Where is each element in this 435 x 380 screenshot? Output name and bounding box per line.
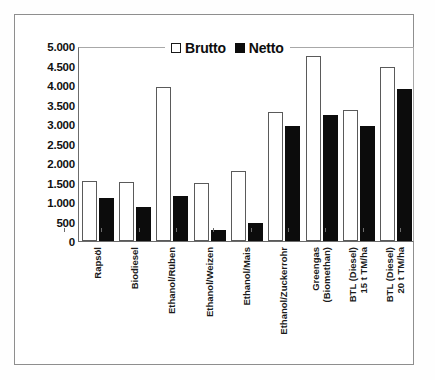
- bar-group: [268, 48, 300, 241]
- bar-brutto: [82, 181, 97, 241]
- bar-group: [343, 48, 375, 241]
- chart-legend: Brutto Netto: [165, 38, 290, 57]
- category-label-line: 20 t TM/ha: [395, 247, 406, 302]
- bar-brutto: [268, 112, 283, 241]
- x-tick: [288, 228, 289, 232]
- bar-brutto: [306, 56, 321, 241]
- bars-container: [79, 48, 413, 241]
- category-label-line: BTL (Diesel): [384, 247, 395, 302]
- category-label-line: Biodiesel: [129, 247, 140, 289]
- bar-group: [194, 48, 226, 241]
- legend-entry-brutto: Brutto: [171, 40, 226, 56]
- bar-brutto: [119, 182, 134, 241]
- category-label: Ethanol/Weizen: [204, 247, 215, 317]
- y-tick-label: 4.000: [29, 80, 75, 92]
- y-axis: 05001.0001.5002.0002.5003.0003.5004.0004…: [29, 40, 75, 249]
- bar-group: [156, 48, 188, 241]
- bar-group: [231, 48, 263, 241]
- category-label: Ethanol/Mais: [241, 247, 252, 306]
- bar-brutto: [231, 171, 246, 241]
- legend-entry-netto: Netto: [235, 40, 284, 56]
- x-tick: [400, 228, 401, 232]
- category-label-line: BTL (Diesel): [347, 247, 358, 302]
- x-tick: [325, 228, 326, 232]
- category-label: Ethanol/Rüben: [166, 247, 177, 314]
- y-tick-label: 2.500: [29, 139, 75, 151]
- bar-brutto: [194, 183, 209, 241]
- chart-figure: 05001.0001.5002.0002.5003.0003.5004.0004…: [0, 0, 435, 380]
- category-label: BTL (Diesel)20 t TM/ha: [384, 247, 406, 302]
- x-tick: [176, 228, 177, 232]
- legend-label-netto: Netto: [249, 40, 284, 56]
- y-tick-label: 3.500: [29, 100, 75, 112]
- bar-netto: [323, 115, 338, 241]
- category-label-line: (Biomethan): [321, 247, 332, 302]
- category-label: Ethanol/Zuckerrohr: [278, 247, 289, 335]
- category-label-line: Rapsöl: [92, 247, 103, 279]
- bar-netto: [360, 126, 375, 241]
- bar-netto: [248, 223, 263, 241]
- bar-group: [306, 48, 338, 241]
- x-tick: [363, 228, 364, 232]
- bar-brutto: [380, 67, 395, 241]
- x-tick: [101, 228, 102, 232]
- y-tick-label: 3.000: [29, 119, 75, 131]
- y-tick-label: 4.500: [29, 61, 75, 73]
- bar-brutto: [343, 110, 358, 241]
- category-label: Rapsöl: [92, 247, 103, 279]
- legend-label-brutto: Brutto: [185, 40, 226, 56]
- y-tick-label: 0: [29, 236, 75, 248]
- bar-group: [82, 48, 114, 241]
- bar-netto: [173, 196, 188, 241]
- x-tick: [139, 228, 140, 232]
- bar-netto: [285, 126, 300, 241]
- y-tick-label: 1.000: [29, 197, 75, 209]
- category-label-line: Greengas: [310, 247, 321, 291]
- category-label-line: Ethanol/Zuckerrohr: [278, 247, 289, 335]
- open-square-icon: [171, 43, 181, 53]
- x-tick: [213, 228, 214, 232]
- figure-frame: 05001.0001.5002.0002.5003.0003.5004.0004…: [14, 14, 414, 365]
- category-label-line: 15 t TM/ha: [358, 247, 369, 302]
- x-tick: [64, 228, 65, 232]
- category-label: Greengas(Biomethan): [310, 247, 332, 302]
- x-tick: [251, 228, 252, 232]
- bar-netto: [136, 207, 151, 241]
- category-label-line: Ethanol/Weizen: [204, 247, 215, 317]
- y-tick-label: 2.000: [29, 158, 75, 170]
- category-label: Biodiesel: [129, 247, 140, 289]
- y-tick-label: 5.000: [29, 41, 75, 53]
- bar-netto: [99, 198, 114, 241]
- bar-group: [119, 48, 151, 241]
- category-label-line: Ethanol/Mais: [241, 247, 252, 306]
- filled-square-icon: [235, 43, 245, 53]
- bar-brutto: [156, 87, 171, 241]
- x-axis-labels: RapsölBiodieselEthanol/RübenEthanol/Weiz…: [78, 247, 414, 377]
- bar-group: [380, 48, 412, 241]
- plot-area: [78, 47, 414, 242]
- category-label: BTL (Diesel)15 t TM/ha: [347, 247, 369, 302]
- y-tick-label: 500: [29, 217, 75, 229]
- y-tick-label: 1.500: [29, 178, 75, 190]
- bar-netto: [397, 89, 412, 241]
- category-label-line: Ethanol/Rüben: [166, 247, 177, 314]
